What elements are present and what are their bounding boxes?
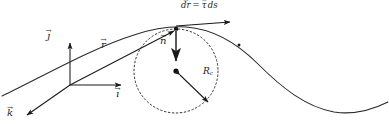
vector-arrow-glyph: → <box>7 104 13 111</box>
tangent-increment-arrow <box>176 22 230 26</box>
diagram-vector-layer <box>0 0 389 134</box>
arc-length-differential-text: ds <box>206 0 217 10</box>
physics-diagram-osculating-circle: →dr=→τds →ȷ →ı →k →r →n Rc <box>0 0 389 134</box>
equation-operator: = <box>191 0 202 10</box>
basis-i-symbol: →ı <box>116 89 119 99</box>
tangent-unit-vector-symbol: →τ <box>202 1 207 10</box>
vector-arrow-glyph: → <box>100 36 106 43</box>
basis-vector-k-label: →k <box>7 108 13 118</box>
basis-k-symbol: →k <box>7 108 13 118</box>
position-vector-symbol: →r <box>101 40 106 50</box>
basis-vector-i-label: →ı <box>116 89 119 99</box>
center-of-curvature-dot <box>173 68 178 73</box>
position-vector-label: →r <box>101 40 106 50</box>
differential-position-vector-symbol: →dr <box>181 1 191 10</box>
curve-direction-tick <box>238 44 241 47</box>
vector-arrow-glyph: → <box>160 32 166 39</box>
normal-vector-symbol: →n <box>160 36 166 46</box>
vector-arrow-glyph: → <box>183 0 188 3</box>
space-curve <box>2 27 388 113</box>
vector-arrow-glyph: → <box>46 27 52 34</box>
vector-arrow-glyph: → <box>115 85 121 92</box>
normal-vector-label: →n <box>160 36 166 46</box>
basis-vector-k-arrow <box>27 85 70 115</box>
tangent-equation-label: →dr=→τds <box>181 1 218 10</box>
radius-symbol-text: R <box>203 66 210 76</box>
basis-vector-j-label: →ȷ <box>47 31 50 41</box>
radius-of-curvature-label: Rc <box>203 67 213 77</box>
basis-j-symbol: →ȷ <box>47 31 50 41</box>
radius-of-curvature-arrow <box>180 75 208 102</box>
radius-subscript-text: c <box>210 70 213 76</box>
vector-arrow-glyph: → <box>201 0 206 3</box>
